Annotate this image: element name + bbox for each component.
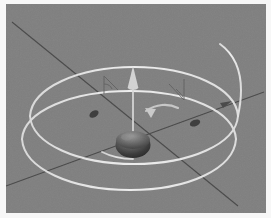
- figure-frame: [0, 0, 271, 218]
- figure-stage: 3D helical orbit around central body: [0, 0, 271, 218]
- central-sphere: [116, 131, 151, 158]
- central-sphere-highlight: [116, 131, 150, 149]
- central-sphere-specular: [121, 134, 133, 141]
- scene-svg: [6, 4, 266, 213]
- render-scene: [6, 4, 266, 213]
